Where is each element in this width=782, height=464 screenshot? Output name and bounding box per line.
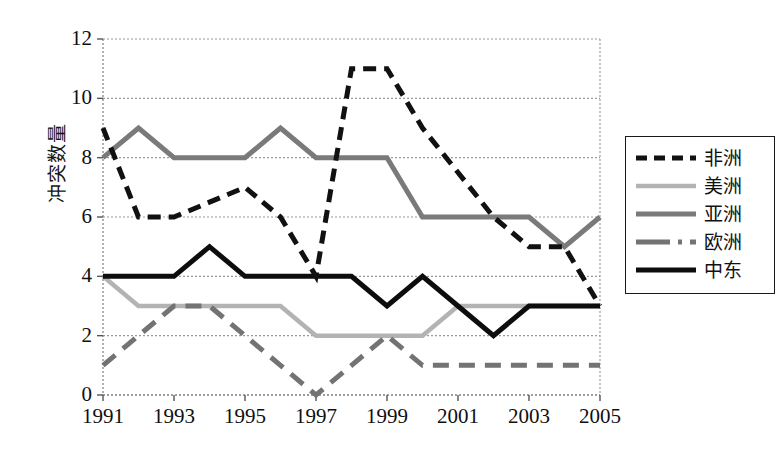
- legend-label: 亚洲: [704, 204, 742, 224]
- legend-swatch-icon: [635, 151, 697, 165]
- x-tick-label: 2001: [423, 404, 493, 428]
- x-tick-label: 1993: [139, 404, 209, 428]
- x-tick-label: 1997: [281, 404, 351, 428]
- legend-swatch-icon: [635, 263, 697, 277]
- legend-item-4[interactable]: 中东: [626, 256, 774, 284]
- legend-item-3[interactable]: 欧洲: [626, 228, 774, 256]
- legend-item-2[interactable]: 亚洲: [626, 200, 774, 228]
- legend-label: 非洲: [704, 148, 742, 168]
- legend-item-1[interactable]: 美洲: [626, 172, 774, 200]
- x-tick-label: 2005: [565, 404, 635, 428]
- x-tick-label: 1991: [68, 404, 138, 428]
- x-tick-label: 1995: [210, 404, 280, 428]
- legend-label: 欧洲: [704, 232, 742, 252]
- legend-swatch-icon: [635, 207, 697, 221]
- line-chart: 冲突数量 024681012 1991199319951997199920012…: [0, 0, 782, 464]
- x-tick-label: 2003: [494, 404, 564, 428]
- legend-label: 美洲: [704, 176, 742, 196]
- x-tick-label: 1999: [352, 404, 422, 428]
- chart-legend: 非洲美洲亚洲欧洲中东: [625, 136, 775, 294]
- legend-swatch-icon: [635, 235, 697, 249]
- legend-swatch-icon: [635, 179, 697, 193]
- legend-label: 中东: [704, 260, 742, 280]
- legend-item-0[interactable]: 非洲: [626, 144, 774, 172]
